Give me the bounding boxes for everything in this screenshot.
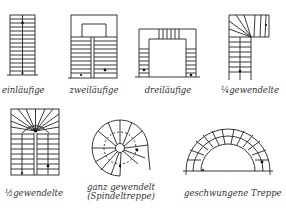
two-flight-stair-icon	[68, 15, 117, 78]
label-halbgewendelte: ½gewendelte	[2, 189, 66, 198]
arrow-head-icon	[239, 70, 242, 73]
label-viertelgewendelte: ¼gewendelte	[218, 86, 282, 95]
start-dot-icon	[265, 24, 267, 26]
label-einlaeufige: einläufige	[2, 86, 44, 95]
start-dot-icon	[202, 169, 204, 171]
label-zweilaeufige: zweiläufige	[64, 86, 124, 95]
label-dreilaeufige: dreiläufige	[140, 86, 196, 95]
arrow-head-icon	[47, 165, 50, 168]
start-dot-icon	[119, 165, 121, 167]
start-dot-icon	[80, 74, 82, 76]
arrow-head-icon	[104, 69, 107, 72]
spiral-stair-icon	[92, 120, 150, 176]
center-point-icon	[34, 129, 37, 132]
label-geschwungene-treppe: geschwungene Treppe	[184, 189, 280, 198]
curved-stair-icon	[183, 129, 273, 175]
quarter-turn-stair-icon	[229, 15, 269, 80]
arrow-head-icon	[21, 22, 24, 25]
half-turn-stair-icon	[11, 109, 59, 175]
start-dot-icon	[21, 72, 23, 74]
arrow-head-icon	[143, 69, 146, 72]
start-dot-icon	[21, 172, 23, 174]
arrow-head-icon	[261, 161, 264, 164]
arrow-head-icon	[136, 149, 139, 152]
start-dot-icon	[190, 74, 193, 77]
label-spindeltreppe: (Spindeltreppe)	[86, 192, 156, 201]
